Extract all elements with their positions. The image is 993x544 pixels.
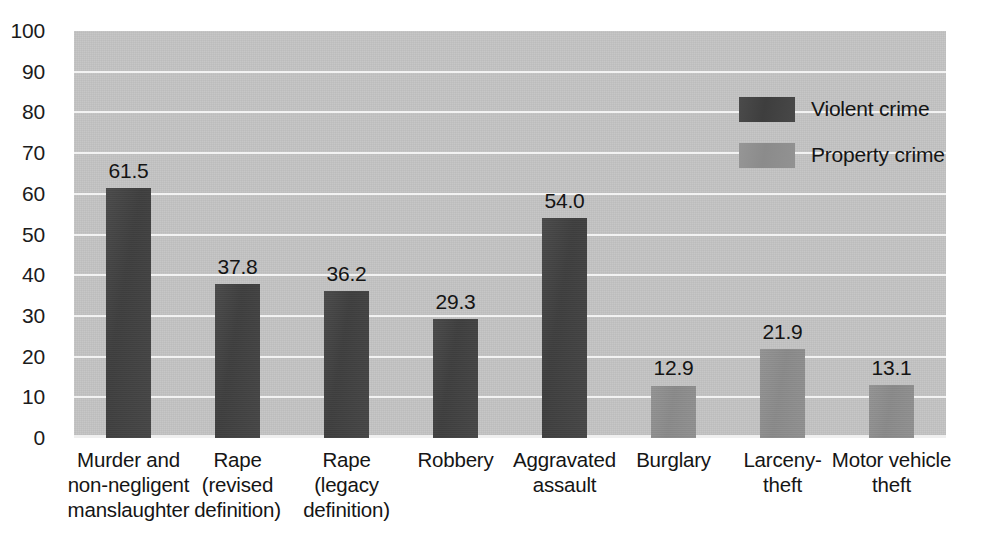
bar-texture: [651, 386, 696, 439]
bar-texture: [433, 319, 478, 438]
bar-texture: [542, 218, 587, 438]
bar-texture: [869, 385, 914, 438]
y-axis-tick-label: 70: [0, 141, 45, 165]
bar-value-label: 36.2: [326, 262, 366, 286]
y-axis-tick-label: 40: [0, 263, 45, 287]
y-axis-tick-label: 60: [0, 182, 45, 206]
bar-value-label: 29.3: [435, 290, 475, 314]
gridline: [74, 193, 946, 195]
bar: [215, 284, 260, 438]
legend-label-violent-crime: Violent crime: [811, 97, 929, 121]
bar-value-label: 54.0: [544, 189, 584, 213]
legend-swatch-property-crime: [739, 143, 795, 168]
y-axis-tick-label: 0: [0, 426, 45, 450]
bar: [542, 218, 587, 438]
bar-value-label: 21.9: [762, 320, 802, 344]
bar: [433, 319, 478, 438]
bar-value-label: 12.9: [653, 356, 693, 380]
legend-label-property-crime: Property crime: [811, 143, 945, 167]
bar: [869, 385, 914, 438]
y-axis-tick-label: 90: [0, 60, 45, 84]
y-axis-tick-label: 30: [0, 304, 45, 328]
plot-area: [74, 31, 946, 438]
chart-legend: Violent crime Property crime: [739, 94, 945, 186]
bar-texture: [106, 188, 151, 438]
bar: [324, 291, 369, 438]
y-axis-tick-label: 80: [0, 100, 45, 124]
bar: [651, 386, 696, 439]
bar-texture: [324, 291, 369, 438]
gridline: [74, 396, 946, 398]
bar-texture: [215, 284, 260, 438]
gridline: [74, 234, 946, 236]
y-axis-tick-label: 20: [0, 345, 45, 369]
gridline: [74, 435, 946, 438]
x-axis-category-label: Motor vehicle theft: [825, 447, 958, 497]
gridline: [74, 356, 946, 358]
bar-value-label: 37.8: [217, 255, 257, 279]
gridline: [74, 71, 946, 73]
bar-value-label: 61.5: [108, 159, 148, 183]
y-axis-tick-label: 10: [0, 385, 45, 409]
gridline: [74, 274, 946, 276]
bar-chart: 0102030405060708090100 61.537.836.229.35…: [0, 0, 993, 544]
bar-texture: [760, 349, 805, 438]
bar: [760, 349, 805, 438]
bar-value-label: 13.1: [871, 356, 911, 380]
y-axis-tick-label: 50: [0, 223, 45, 247]
legend-item-property-crime: Property crime: [739, 140, 945, 170]
y-axis-tick-label: 100: [0, 19, 45, 43]
gridline: [74, 315, 946, 317]
legend-swatch-violent-crime: [739, 97, 795, 122]
bar: [106, 188, 151, 438]
legend-item-violent-crime: Violent crime: [739, 94, 945, 124]
